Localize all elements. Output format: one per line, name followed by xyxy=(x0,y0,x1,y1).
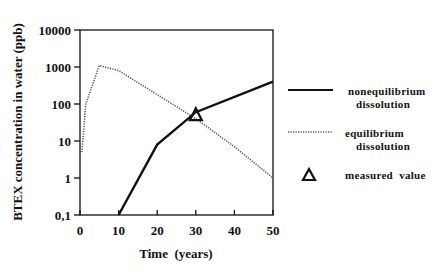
y-axis-title: BTEX concentration in water (ppb) xyxy=(10,23,25,221)
legend-nonequilibrium-label-2: dissolution xyxy=(356,98,410,110)
legend-equilibrium-label-1: equilibrium xyxy=(345,127,404,139)
nonequilibrium-dissolution-line xyxy=(119,82,273,215)
equilibrium-dissolution-line xyxy=(82,66,273,179)
chart: 0,1110100100010000 01020304050 Time (yea… xyxy=(0,0,441,272)
y-tick-label: 10 xyxy=(58,134,71,149)
x-tick-label: 10 xyxy=(112,223,125,238)
x-tick-label: 50 xyxy=(267,223,280,238)
legend-measured-label: measured value xyxy=(345,169,426,181)
legend-triangle-icon xyxy=(303,169,315,180)
y-tick-label: 1 xyxy=(65,171,72,186)
y-axis: 0,1110100100010000 xyxy=(39,23,81,223)
x-axis: 01020304050 xyxy=(77,210,280,238)
y-tick-label: 0,1 xyxy=(55,208,71,223)
legend-nonequilibrium-label-1: nonequilibrium xyxy=(348,85,426,97)
legend-equilibrium-label-2: dissolution xyxy=(356,140,410,152)
x-tick-label: 30 xyxy=(189,223,202,238)
legend: nonequilibrium dissolution equilibrium d… xyxy=(288,85,426,181)
plot-frame xyxy=(80,30,273,215)
y-tick-label: 10000 xyxy=(39,23,72,38)
y-tick-label: 100 xyxy=(52,97,72,112)
x-tick-label: 0 xyxy=(77,223,84,238)
x-tick-label: 20 xyxy=(151,223,164,238)
y-tick-label: 1000 xyxy=(45,60,71,75)
x-axis-title: Time (years) xyxy=(139,246,212,261)
x-tick-label: 40 xyxy=(228,223,241,238)
